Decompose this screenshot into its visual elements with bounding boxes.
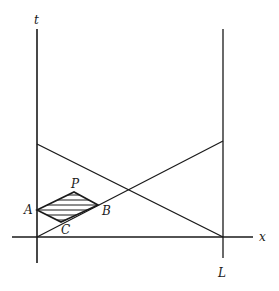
quadrilateral-APBC [37,192,98,222]
L-label: L [217,266,226,280]
point-C-label: C [61,223,70,237]
point-P-label: P [70,177,80,191]
point-B-label: B [101,204,111,218]
x-axis-label: x [259,230,266,244]
point-A-label: A [23,203,33,217]
characteristic-diagram: t x L A P B C [0,0,279,291]
t-axis-label: t [34,13,39,27]
